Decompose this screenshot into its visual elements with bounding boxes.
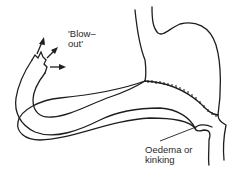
oedema-label-line2: kinking — [145, 155, 193, 165]
blowout-tear — [32, 52, 47, 73]
pylorus-inner — [195, 125, 212, 165]
stomach-diagram — [0, 0, 241, 174]
loop-outer — [16, 60, 195, 135]
oesophagus-left-wall — [135, 10, 146, 81]
stomach-lower-wall — [218, 115, 226, 160]
blowout-label-line2: out' — [68, 39, 96, 49]
stomach-outer-wall — [152, 7, 220, 115]
blowout-label: 'Blow– out' — [68, 29, 96, 49]
staple-line — [145, 81, 218, 115]
oedema-label: Oedema or kinking — [145, 145, 193, 165]
oedema-pointer — [160, 127, 196, 141]
tube-outer-wall — [18, 81, 195, 140]
